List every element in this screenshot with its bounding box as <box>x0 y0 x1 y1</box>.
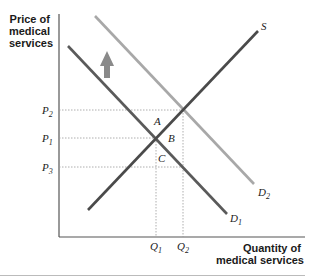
quantity-label-q1: Q1 <box>150 240 162 255</box>
supply-label: S <box>261 20 267 32</box>
price-label-p1: P1 <box>41 132 53 147</box>
shift-arrow-icon <box>100 51 114 78</box>
supply-curve <box>88 31 258 210</box>
x-axis-title: Quantity of medical services <box>216 242 304 266</box>
y-axis-title: Price of medical services <box>9 13 53 49</box>
supply-demand-diagram: Price of medical services Quantity of me… <box>0 0 320 278</box>
quantity-label-q2: Q2 <box>177 240 189 255</box>
price-label-p2: P2 <box>41 104 53 119</box>
point-a-label: A <box>153 115 161 127</box>
demand2-label: D2 <box>257 186 270 201</box>
point-b-label: B <box>168 132 175 144</box>
price-label-p3: P3 <box>41 161 53 176</box>
point-c-label: C <box>158 152 166 164</box>
demand1-label: D1 <box>229 212 242 227</box>
